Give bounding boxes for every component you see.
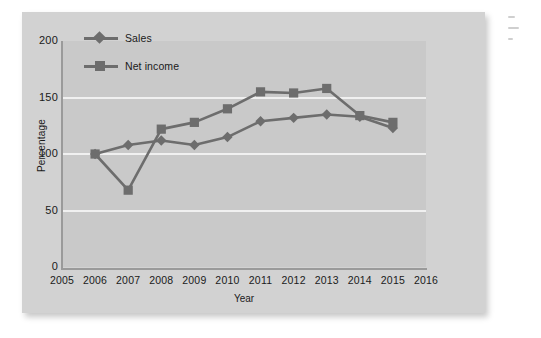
legend-label: Sales [125, 32, 152, 44]
page-canvas: 050100150200 Percentage 2005200620072008… [0, 0, 541, 338]
series-line-net-income [95, 88, 393, 190]
square-marker [124, 186, 133, 195]
diamond-marker [288, 113, 298, 123]
margin-text-line [508, 16, 515, 18]
diamond-marker [222, 132, 232, 142]
diamond-marker-glyph [93, 31, 106, 44]
square-marker [84, 59, 118, 73]
line-chart: 050100150200 Percentage 2005200620072008… [22, 12, 485, 313]
square-marker-glyph [95, 61, 105, 71]
figure-card: 050100150200 Percentage 2005200620072008… [22, 12, 485, 313]
margin-text-line [508, 27, 519, 29]
diamond-marker [255, 116, 265, 126]
square-marker [256, 87, 265, 96]
y-axis-tick-label: 200 [24, 34, 58, 46]
square-marker [289, 88, 298, 97]
series-line-sales [95, 114, 393, 154]
diamond-marker [84, 31, 118, 45]
diamond-marker [123, 140, 133, 150]
diamond-marker [189, 140, 199, 150]
chart-legend: SalesNet income [84, 28, 179, 84]
square-marker [223, 104, 232, 113]
square-marker [355, 111, 364, 120]
legend-item[interactable]: Sales [84, 28, 179, 48]
legend-item[interactable]: Net income [84, 56, 179, 76]
square-marker [157, 125, 166, 134]
margin-text-line [508, 38, 513, 40]
x-axis-line [61, 268, 427, 270]
x-axis-title: Year [62, 293, 426, 304]
margin-text-fragments [508, 16, 541, 76]
square-marker [90, 149, 99, 158]
x-axis-tick-labels: 2005200620072008200920102011201220132014… [22, 274, 485, 292]
y-axis-tick-label: 0 [24, 260, 58, 272]
y-axis-title: Percentage [36, 91, 47, 201]
legend-label: Net income [125, 60, 179, 72]
x-axis-tick-label: 2016 [406, 274, 446, 286]
square-marker [190, 118, 199, 127]
square-marker [388, 118, 397, 127]
square-marker [322, 84, 331, 93]
diamond-marker [322, 109, 332, 119]
y-axis-tick-label: 50 [24, 204, 58, 216]
